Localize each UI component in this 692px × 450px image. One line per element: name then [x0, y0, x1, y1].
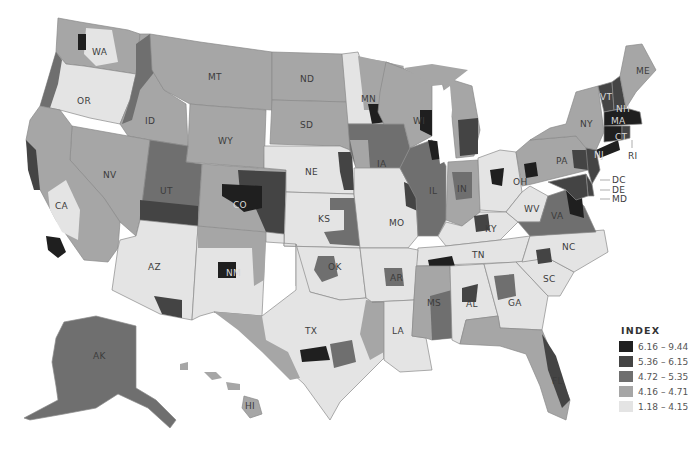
- label-hi: HI: [245, 401, 255, 411]
- label-ut: UT: [160, 186, 173, 196]
- legend-title: INDEX: [621, 325, 692, 336]
- state-hi-islands-2: [226, 382, 240, 390]
- label-wi: WI: [413, 116, 425, 126]
- label-in: IN: [457, 184, 467, 194]
- label-ar: AR: [390, 273, 403, 283]
- label-ks: KS: [318, 214, 330, 224]
- legend-swatch: [619, 386, 633, 397]
- label-al: AL: [466, 299, 478, 309]
- legend-range: 4.16 – 4.71: [638, 387, 688, 397]
- label-mt: MT: [208, 72, 222, 82]
- label-il: IL: [429, 186, 437, 196]
- label-wy: WY: [218, 136, 233, 146]
- state-pa-pitt: [524, 162, 538, 178]
- legend-row: 5.36 – 6.15: [619, 354, 692, 369]
- choropleth-map: WA OR ID MT WY NV UT CO CA AZ NM ND SD N…: [0, 0, 692, 450]
- label-sc: SC: [543, 274, 556, 284]
- label-nd: ND: [300, 74, 314, 84]
- label-ms: MS: [427, 298, 441, 308]
- legend-row: 4.72 – 5.35: [619, 369, 692, 384]
- label-ri: RI: [628, 151, 638, 161]
- label-ca: CA: [55, 201, 69, 211]
- label-tn: TN: [471, 250, 485, 260]
- legend-swatch: [619, 371, 633, 382]
- label-fl: FL: [552, 376, 563, 386]
- label-tx: TX: [304, 326, 317, 336]
- legend-range: 4.72 – 5.35: [638, 372, 688, 382]
- state-hi-islands-3: [180, 362, 188, 370]
- label-co: CO: [233, 200, 247, 210]
- state-mi-detroit: [458, 118, 478, 156]
- label-ne: NE: [305, 167, 318, 177]
- legend: INDEX 6.16 – 9.44 5.36 – 6.15 4.72 – 5.3…: [619, 325, 692, 414]
- label-nh: NH: [616, 104, 630, 114]
- label-va: VA: [551, 211, 564, 221]
- label-ny: NY: [580, 119, 593, 129]
- state-ca-la: [46, 236, 66, 258]
- label-mn: MN: [361, 94, 376, 104]
- state-oh-columbus: [490, 168, 504, 186]
- state-nc-charlotte: [536, 248, 552, 264]
- label-ga: GA: [508, 298, 522, 308]
- state-me[interactable]: [620, 44, 656, 108]
- label-md: MD: [612, 194, 627, 204]
- label-or: OR: [77, 96, 91, 106]
- legend-range: 5.36 – 6.15: [638, 357, 688, 367]
- label-dc: DC: [612, 175, 626, 185]
- label-mo: MO: [389, 218, 404, 228]
- legend-range: 6.16 – 9.44: [638, 342, 688, 352]
- label-ak: AK: [93, 351, 106, 361]
- label-ia: IA: [377, 159, 387, 169]
- legend-row: 4.16 – 4.71: [619, 384, 692, 399]
- label-wv: WV: [524, 204, 540, 214]
- state-ia-west: [350, 140, 370, 168]
- legend-range: 1.18 – 4.15: [638, 402, 688, 412]
- label-nv: NV: [103, 170, 117, 180]
- label-ma: MA: [611, 116, 626, 126]
- state-hi-islands: [204, 372, 222, 380]
- legend-swatch: [619, 356, 633, 367]
- label-ct: CT: [615, 132, 628, 142]
- label-ok: OK: [328, 262, 342, 272]
- label-az: AZ: [148, 262, 161, 272]
- state-pa-philly: [572, 150, 588, 170]
- label-wa: WA: [92, 47, 108, 57]
- label-id: ID: [145, 116, 155, 126]
- state-wa-metro: [78, 34, 86, 50]
- label-me: ME: [636, 66, 650, 76]
- legend-swatch: [619, 401, 633, 412]
- legend-row: 1.18 – 4.15: [619, 399, 692, 414]
- label-la: LA: [392, 326, 405, 336]
- legend-row: 6.16 – 9.44: [619, 339, 692, 354]
- label-ky: KY: [485, 224, 497, 234]
- label-oh: OH: [513, 177, 527, 187]
- label-nj: NJ: [594, 150, 604, 160]
- label-vt: VT: [600, 92, 612, 102]
- label-pa: PA: [556, 156, 568, 166]
- label-nc: NC: [562, 242, 576, 252]
- label-sd: SD: [300, 120, 313, 130]
- legend-swatch: [619, 341, 633, 352]
- state-ak[interactable]: [24, 316, 176, 428]
- label-nm: NM: [226, 268, 241, 278]
